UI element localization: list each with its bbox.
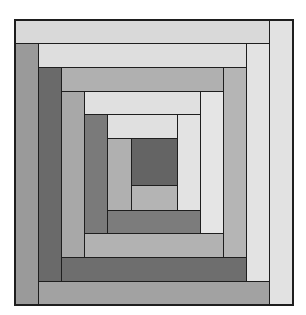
quilt-patch-left-2 bbox=[84, 114, 108, 234]
quilt-patch-right-2 bbox=[200, 91, 224, 234]
quilt-patch-right-3 bbox=[223, 67, 247, 258]
quilt-patch-top-4 bbox=[38, 43, 247, 68]
quilt-patch-right-4 bbox=[246, 43, 270, 282]
quilt-patch-center bbox=[131, 138, 178, 186]
quilt-patch-left-4 bbox=[38, 67, 62, 282]
quilt-patch-bottom-2 bbox=[107, 210, 201, 234]
quilt-patch-right-1 bbox=[177, 114, 201, 211]
quilt-patch-left-3 bbox=[61, 91, 85, 258]
quilt-patch-bottom-1 bbox=[131, 185, 178, 211]
quilt-patch-top-outer bbox=[14, 19, 270, 44]
quilt-patch-right-outer bbox=[269, 19, 294, 306]
quilt-patch-left-1 bbox=[107, 138, 132, 211]
log-cabin-quilt-diagram: Log Cabin quilt block bbox=[0, 0, 306, 315]
quilt-patch-bottom-3 bbox=[84, 233, 224, 258]
quilt-patch-bottom-4 bbox=[61, 257, 247, 282]
quilt-patch-left-outer bbox=[14, 43, 39, 306]
quilt-patch-top-3 bbox=[61, 67, 224, 92]
quilt-patch-bottom-outer bbox=[38, 281, 270, 306]
quilt-patch-top-2 bbox=[84, 91, 201, 115]
quilt-patch-top-1 bbox=[107, 114, 178, 139]
